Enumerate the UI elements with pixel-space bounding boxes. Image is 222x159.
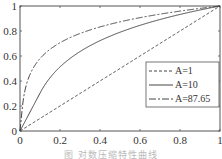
figure-caption: 图 对数压缩特性曲线	[0, 148, 222, 159]
chart: 00.20.40.60.81 00.20.40.60.81 A=1 A=10 A…	[0, 0, 222, 159]
y-tick-label: 1	[12, 0, 18, 12]
x-axis-labels: 00.20.40.60.81	[17, 134, 222, 146]
y-tick-label: 0.4	[3, 75, 17, 87]
x-tick-label: 1	[217, 134, 222, 146]
x-tick-label: 0.4	[93, 134, 107, 146]
legend-label-a1: A=1	[175, 65, 193, 76]
x-tick-label: 0.8	[173, 134, 187, 146]
x-tick-label: 0.2	[53, 134, 67, 146]
y-axis-labels: 00.20.40.60.81	[3, 0, 17, 137]
legend: A=1 A=10 A=87.65	[146, 62, 219, 107]
legend-label-a10: A=10	[175, 79, 198, 90]
x-tick-label: 0.6	[133, 134, 147, 146]
legend-label-a87: A=87.65	[175, 93, 210, 104]
y-tick-label: 0.2	[3, 100, 17, 112]
y-tick-label: 0.6	[3, 50, 17, 62]
x-tick-label: 0	[17, 134, 23, 146]
y-tick-label: 0.8	[3, 25, 17, 37]
